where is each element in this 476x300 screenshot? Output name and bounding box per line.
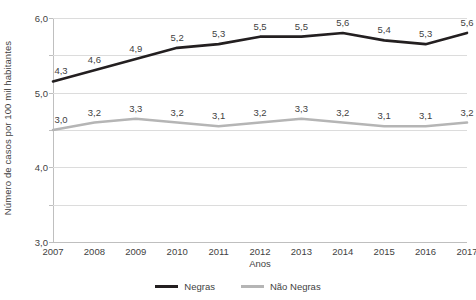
x-tick-label: 2015 bbox=[374, 246, 395, 257]
x-axis-title: Anos bbox=[53, 258, 467, 269]
y-tick-mark bbox=[49, 242, 53, 243]
series-lines bbox=[53, 18, 467, 242]
y-tick-label: 4,0 bbox=[35, 162, 48, 173]
gridline: 0,0 bbox=[53, 242, 467, 243]
x-tick-label: 2017 bbox=[456, 246, 476, 257]
line-chart: Número de casos por 100 mil habitantes 0… bbox=[0, 0, 476, 300]
y-tick-label: 5,0 bbox=[35, 87, 48, 98]
x-tick-label: 2014 bbox=[332, 246, 353, 257]
series-line bbox=[53, 119, 467, 130]
legend-label: Não Negras bbox=[270, 281, 321, 292]
x-tick-label: 2009 bbox=[125, 246, 146, 257]
x-tick-label: 2007 bbox=[42, 246, 63, 257]
legend-swatch-icon bbox=[155, 285, 178, 288]
series-line bbox=[53, 33, 467, 82]
plot-area: 0,01,02,03,04,05,06,0 4,34,64,95,25,35,5… bbox=[53, 18, 467, 242]
legend-label: Negras bbox=[184, 281, 215, 292]
x-tick-label: 2012 bbox=[249, 246, 270, 257]
legend-item[interactable]: Negras bbox=[155, 281, 215, 292]
x-tick-label: 2010 bbox=[167, 246, 188, 257]
legend-item[interactable]: Não Negras bbox=[241, 281, 321, 292]
y-axis-title: Número de casos por 100 mil habitantes bbox=[0, 8, 16, 248]
y-tick-label: 6,0 bbox=[35, 13, 48, 24]
legend-swatch-icon bbox=[241, 285, 264, 288]
x-tick-label: 2011 bbox=[208, 246, 228, 257]
x-tick-label: 2008 bbox=[84, 246, 105, 257]
x-tick-label: 2013 bbox=[291, 246, 312, 257]
x-tick-label: 2016 bbox=[415, 246, 436, 257]
chart-legend: NegrasNão Negras bbox=[0, 281, 476, 292]
